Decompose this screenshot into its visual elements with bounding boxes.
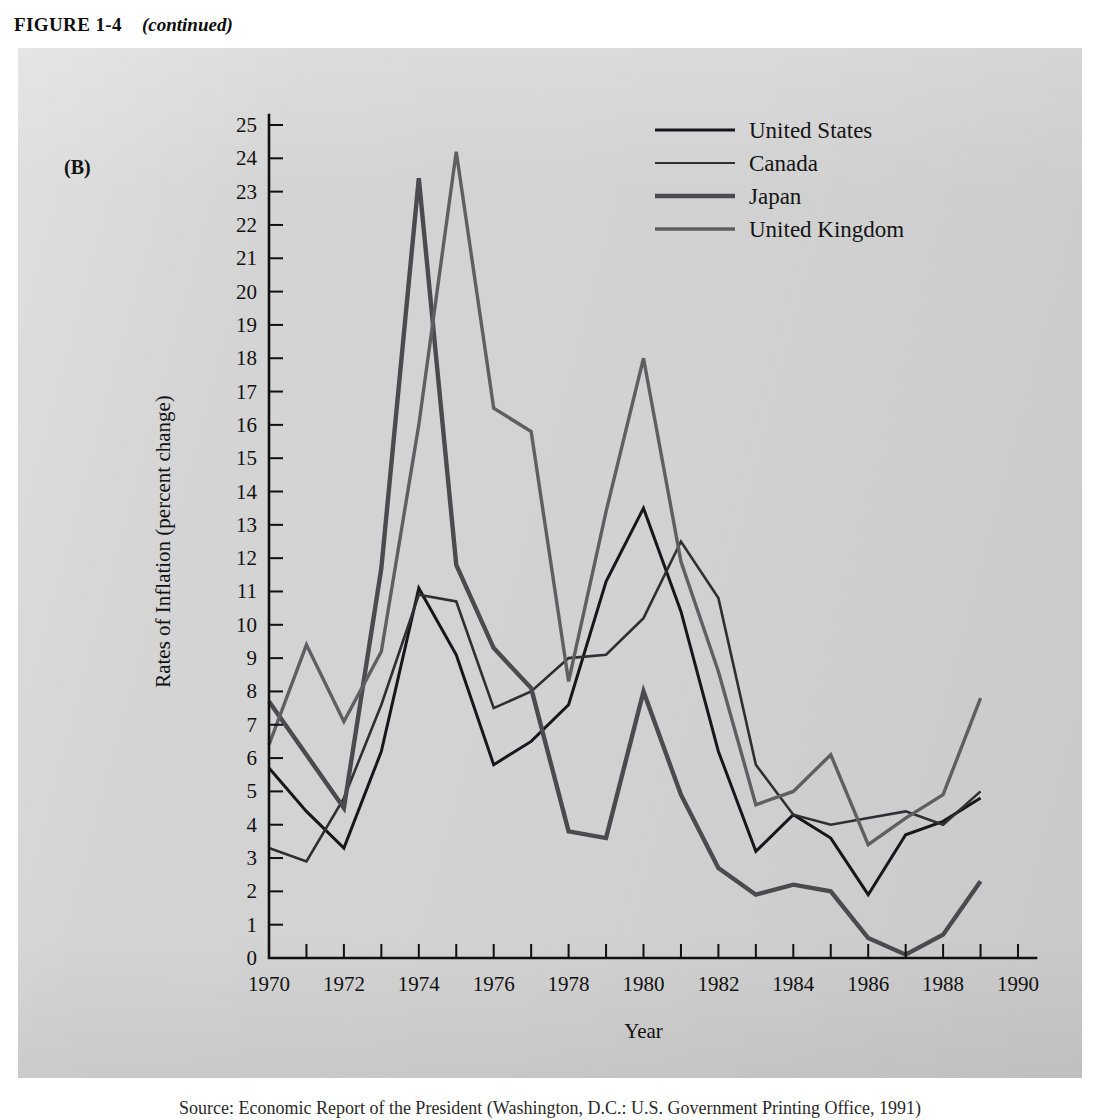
series-line-japan <box>269 178 981 954</box>
series-line-united-states <box>269 508 981 895</box>
x-axis-ticks-group <box>269 944 1018 958</box>
y-tick-label: 0 <box>247 946 258 970</box>
y-tick-label: 10 <box>236 613 257 637</box>
y-tick-label: 14 <box>236 480 258 504</box>
y-tick-label: 25 <box>236 113 257 137</box>
y-axis-title: Rates of Inflation (percent change) <box>151 395 175 688</box>
y-tick-label: 3 <box>247 846 258 870</box>
x-tick-label: 1978 <box>548 972 590 996</box>
x-tick-label: 1988 <box>922 972 964 996</box>
y-tick-label: 11 <box>237 579 257 603</box>
x-tick-label: 1972 <box>323 972 365 996</box>
x-tick-label: 1990 <box>997 972 1039 996</box>
inflation-line-chart: 1970197219741976197819801982198419861988… <box>18 48 1082 1078</box>
y-tick-label: 24 <box>236 146 258 170</box>
x-tick-label: 1980 <box>623 972 665 996</box>
figure-panel: (B) 197019721974197619781980198219841986… <box>18 48 1082 1078</box>
y-tick-label: 23 <box>236 180 257 204</box>
y-axis-tick-labels-group: 0123456789101112131415161718192021222324… <box>236 113 258 970</box>
y-tick-label: 7 <box>247 713 258 737</box>
y-tick-label: 15 <box>236 446 257 470</box>
figure-continued-note: (continued) <box>142 14 233 35</box>
y-tick-label: 21 <box>236 246 257 270</box>
y-tick-label: 20 <box>236 280 257 304</box>
y-tick-label: 1 <box>247 913 258 937</box>
y-tick-label: 17 <box>236 380 257 404</box>
y-tick-label: 6 <box>247 746 258 770</box>
chart-legend-group: United StatesCanadaJapanUnited Kingdom <box>655 118 904 242</box>
legend-label-japan: Japan <box>749 184 802 209</box>
y-tick-label: 4 <box>247 813 258 837</box>
x-tick-label: 1970 <box>248 972 290 996</box>
y-tick-label: 9 <box>247 646 258 670</box>
x-tick-label: 1986 <box>847 972 889 996</box>
x-tick-label: 1976 <box>473 972 515 996</box>
x-tick-label: 1984 <box>772 972 815 996</box>
y-tick-label: 13 <box>236 513 257 537</box>
figure-label: FIGURE 1-4 <box>14 14 122 35</box>
legend-label-canada: Canada <box>749 151 818 176</box>
legend-label-united-kingdom: United Kingdom <box>749 217 904 242</box>
y-tick-label: 18 <box>236 346 257 370</box>
x-axis-tick-labels-group: 1970197219741976197819801982198419861988… <box>248 972 1039 996</box>
y-axis-ticks-group <box>269 125 283 958</box>
y-tick-label: 5 <box>247 779 258 803</box>
y-tick-label: 12 <box>236 546 257 570</box>
y-tick-label: 19 <box>236 313 257 337</box>
y-tick-label: 2 <box>247 879 258 903</box>
series-line-united-kingdom <box>269 152 981 845</box>
y-tick-label: 22 <box>236 213 257 237</box>
x-axis-title: Year <box>624 1019 663 1043</box>
figure-caption: Source: Economic Report of the President… <box>18 1084 1082 1120</box>
legend-label-united-states: United States <box>749 118 872 143</box>
y-tick-label: 16 <box>236 413 257 437</box>
figure-heading: FIGURE 1-4 (continued) <box>14 14 233 36</box>
x-tick-label: 1974 <box>398 972 441 996</box>
x-tick-label: 1982 <box>697 972 739 996</box>
y-tick-label: 8 <box>247 679 258 703</box>
figure-caption-text: Source: Economic Report of the President… <box>18 1098 1082 1119</box>
chart-series-group <box>269 152 981 955</box>
series-line-canada <box>269 542 981 862</box>
